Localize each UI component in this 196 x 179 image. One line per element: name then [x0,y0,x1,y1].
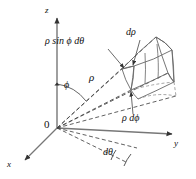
wedge-bottom-face [131,73,174,99]
ray-to-near-bottom-corner [57,90,131,128]
x-axis-line [25,128,57,160]
polar-angle-label: ϕ [64,80,69,90]
y-axis-label: y [174,139,178,148]
azimuth-increment-label: dθ [103,147,113,157]
phi-angle-arc [54,83,86,101]
wedge-hidden-edge-1 [131,82,174,90]
ray-to-far-top-corner [57,37,156,128]
x-axis-label: x [7,160,11,169]
y-axis-line [57,128,172,134]
wedge-rib-2 [145,53,146,84]
origin-label: 0 [44,119,50,130]
arc-length-phi-label: ρ dϕ [122,113,139,123]
radial-thickness-label: dρ [126,27,136,37]
wedge-outer-face [156,37,174,82]
theta-sweep-rays-group [57,128,137,163]
theta-angle-arc [111,150,131,166]
z-axis-label: z [45,6,49,15]
figure-canvas [0,0,196,179]
volume-element-wedge [122,37,176,99]
arc-length-theta-label: ρ sin ϕ dθ [45,36,84,46]
leader-rho-sin-phi-dtheta [108,49,124,68]
leader-rho-dphi [131,92,133,114]
wedge-hidden-edge-3 [174,82,176,96]
spherical-volume-element-figure: z y x 0 ρ sin ϕ dθ dρ ρ dϕ ϕ ρ dθ [0,0,196,179]
wedge-hidden-edge-2 [138,95,176,99]
radial-rays-group [57,37,176,128]
radius-label: ρ [89,72,94,83]
theta-ray-second [57,128,128,163]
wedge-rib-3 [157,44,158,79]
ray-to-lower-back-corner [57,96,176,128]
